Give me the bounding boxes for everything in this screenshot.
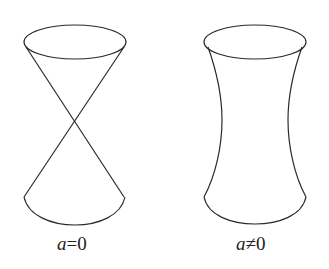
cone-top-ellipse <box>24 25 126 59</box>
hyperboloid-bottom-arc <box>204 197 306 224</box>
label-variable: a <box>57 233 67 254</box>
hyperboloid-right-side <box>288 47 306 197</box>
label-a-equals-zero: a=0 <box>57 233 87 255</box>
cone-bottom-arc <box>24 197 125 225</box>
hyperboloid-left-side <box>204 47 222 197</box>
label-variable: a <box>236 233 246 254</box>
label-a-not-equal-zero: a≠0 <box>236 233 265 255</box>
hyperboloid-figure <box>204 25 306 224</box>
label-relation: ≠0 <box>246 233 266 254</box>
label-relation: =0 <box>67 233 87 254</box>
hyperboloid-top-ellipse <box>204 25 306 59</box>
diagram-canvas <box>0 0 329 269</box>
double-cone-figure <box>24 25 126 225</box>
